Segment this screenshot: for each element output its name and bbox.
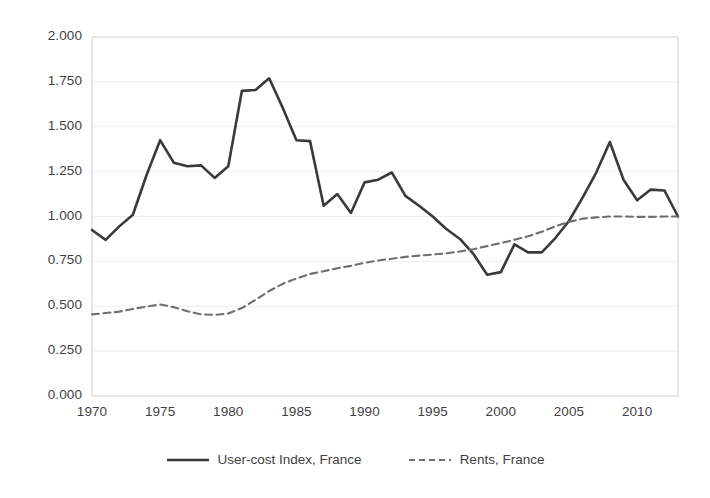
legend-label-rents: Rents, France — [460, 452, 545, 467]
y-tick-label: 0.500 — [22, 297, 82, 312]
series-line-rents — [92, 217, 678, 315]
x-tick-label: 1990 — [335, 404, 395, 419]
x-tick-label: 2010 — [607, 404, 667, 419]
x-tick-label: 1995 — [403, 404, 463, 419]
y-tick-label: 1.250 — [22, 163, 82, 178]
gridlines — [92, 37, 678, 396]
legend-entry-user-cost-index[interactable]: User-cost Index, France — [166, 452, 362, 467]
x-tick-label: 1975 — [130, 404, 190, 419]
series-line-user-cost-index — [92, 78, 678, 275]
chart-container: 0.0000.2500.5000.7501.0001.2501.5001.750… — [0, 0, 710, 498]
line-chart-plot — [0, 0, 710, 498]
x-tick-label: 1985 — [266, 404, 326, 419]
y-tick-label: 1.000 — [22, 208, 82, 223]
x-tick-label: 1980 — [198, 404, 258, 419]
x-tick-label: 1970 — [62, 404, 122, 419]
series-layer — [92, 78, 678, 315]
legend-swatch-dashed-line-icon — [408, 454, 452, 466]
legend-entry-rents[interactable]: Rents, France — [408, 452, 545, 467]
chart-legend: User-cost Index, France Rents, France — [0, 452, 710, 467]
y-tick-label: 1.500 — [22, 118, 82, 133]
y-tick-label: 1.750 — [22, 73, 82, 88]
x-tick-label: 2005 — [539, 404, 599, 419]
legend-swatch-solid-line-icon — [166, 454, 210, 466]
y-tick-label: 0.000 — [22, 387, 82, 402]
y-tick-label: 0.750 — [22, 252, 82, 267]
y-tick-label: 2.000 — [22, 28, 82, 43]
legend-label-user-cost-index: User-cost Index, France — [218, 452, 362, 467]
x-tick-label: 2000 — [471, 404, 531, 419]
y-tick-label: 0.250 — [22, 342, 82, 357]
